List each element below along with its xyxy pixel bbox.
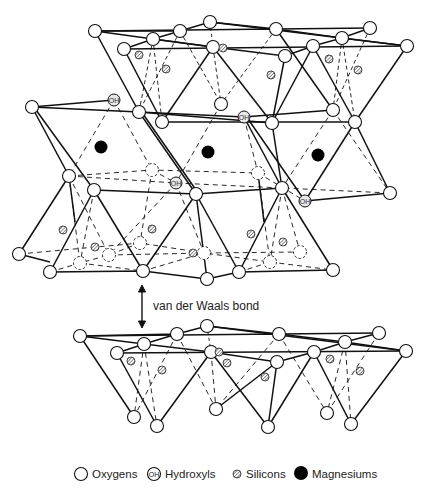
svg-text:OH: OH (149, 471, 160, 478)
legend-item-hydroxyls: OH Hydroxyls (146, 463, 215, 485)
van-der-waals-arrow (139, 285, 146, 328)
legend-item-oxygens: Oxygens (73, 463, 137, 485)
oxygen-icon (73, 466, 89, 482)
legend-label: Silicons (246, 468, 286, 480)
legend-item-magnesiums: Magnesiums (293, 463, 377, 485)
hydroxyl-atom: OH (108, 94, 120, 106)
next-layer-tetrahedral-sheet (80, 326, 406, 427)
hydroxyl-atom: OH (170, 177, 182, 189)
talc-crystal-structure-diagram: OH OH OH OH (0, 0, 426, 494)
legend: Oxygens OH Hydroxyls Silicons Magnesiums (0, 463, 426, 485)
svg-text:OH: OH (171, 180, 182, 187)
legend-item-silicons: Silicons (231, 463, 286, 485)
magnesium-atoms (95, 141, 325, 162)
van-der-waals-label: van der Waals bond (153, 299, 259, 313)
svg-text:OH: OH (239, 114, 250, 121)
legend-label: Magnesiums (312, 468, 377, 480)
legend-label: Oxygens (92, 468, 137, 480)
legend-label: Hydroxyls (165, 468, 215, 480)
svg-text:OH: OH (300, 198, 311, 205)
hydroxyl-icon: OH (146, 466, 162, 482)
svg-text:OH: OH (109, 97, 120, 104)
hydroxyl-atom: OH (299, 195, 311, 207)
magnesium-icon (293, 466, 309, 482)
hydroxyl-atom: OH (238, 111, 250, 123)
silicon-icon (231, 466, 243, 482)
